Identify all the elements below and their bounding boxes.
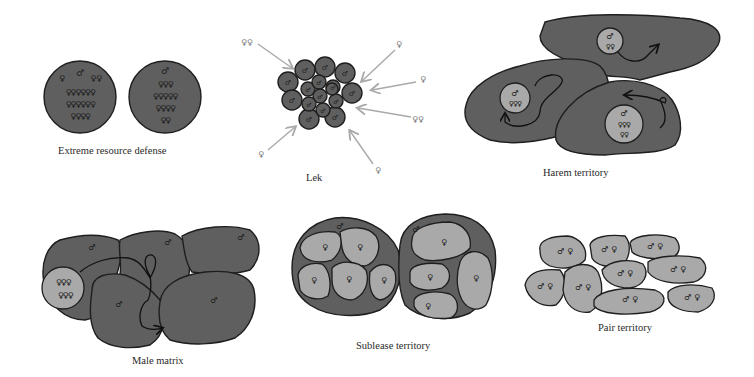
label-harem-territory: Harem territory — [543, 167, 609, 178]
male-icon: ♂ — [620, 109, 627, 118]
pair-icon: ♂ ♀ — [617, 269, 633, 278]
harem-group-left — [500, 83, 530, 113]
female-icon: ♀♀♀♀♀♀ — [65, 100, 95, 109]
female-icon: ♀ — [375, 166, 381, 175]
female-icon: ♀ — [311, 276, 317, 285]
female-icon: ♀ — [258, 150, 264, 159]
sublease-territory-panel: ♂ ♂ ♀ ♀ ♀ ♀ ♀ ♀ ♀ ♀ ♀ — [292, 214, 496, 319]
female-icon: ♀♀♀♀ — [155, 104, 176, 113]
pair-icon: ♂ ♀ — [684, 293, 700, 302]
male-icon: ♂ — [320, 107, 325, 114]
extreme-resource-defense-panel: ♂ ♀ ♀♀ ♀♀♀♀♀♀ ♀♀♀♀♀♀ ♀♀♀♀ ♂ ♀♀♀ ♀♀♀♀♀ ♀♀… — [44, 61, 201, 133]
female-icon: ♀♀♀♀♀ — [153, 92, 178, 101]
male-icon: ♂ — [161, 66, 169, 76]
female-icon: ♀♀ — [412, 115, 424, 124]
label-lek: Lek — [306, 172, 322, 183]
male-icon: ♂ — [336, 222, 343, 231]
female-icon: ♀ — [381, 276, 387, 285]
matrix-territory-5 — [159, 271, 255, 344]
female-icon: ♀♀♀ — [158, 80, 174, 89]
male-icon: ♂ — [289, 97, 295, 105]
female-icon: ♀♀♀♀ — [70, 112, 91, 121]
male-matrix-panel: ♂ ♂ ♂ ♂ ♂ ♀♀♀ ♀♀♀ — [42, 227, 259, 348]
label-male-matrix: Male matrix — [132, 355, 184, 366]
female-icon: ♀♀ — [606, 43, 615, 51]
pair-icon: ♂ ♀ — [601, 245, 617, 254]
matrix-territory-3 — [182, 227, 259, 274]
male-icon: ♂ — [333, 98, 338, 105]
female-icon: ♀♀♀ — [58, 291, 74, 300]
male-icon: ♂ — [606, 32, 613, 41]
mating-systems-diagram: ♂ ♀ ♀♀ ♀♀♀♀♀♀ ♀♀♀♀♀♀ ♀♀♀♀ ♂ ♀♀♀ ♀♀♀♀♀ ♀♀… — [0, 0, 754, 377]
male-icon: ♂ — [511, 89, 518, 98]
female-icon: ♀ — [357, 243, 363, 252]
pair-icon: ♂ ♀ — [537, 282, 553, 291]
pair-icon: ♂ ♀ — [647, 242, 663, 251]
pair-territory-panel: ♂ ♀ ♂ ♀ ♂ ♀ ♂ ♀ ♂ ♀ ♂ ♀ ♂ ♀ ♂ ♀ ♂ ♀ — [525, 235, 714, 314]
pair-icon: ♂ ♀ — [622, 295, 638, 304]
female-icon: ♀ — [420, 75, 426, 84]
label-sublease-territory: Sublease territory — [356, 340, 430, 351]
female-icon: ♀♀ — [620, 131, 629, 139]
male-icon: ♂ — [76, 68, 84, 78]
male-icon: ♂ — [306, 116, 312, 124]
male-icon: ♂ — [342, 70, 348, 78]
female-icon: ♀ — [322, 243, 328, 252]
pair-icon: ♂ ♀ — [557, 247, 573, 256]
female-icon: ♀ — [441, 238, 447, 247]
female-icon: ♀ — [427, 273, 433, 282]
male-icon: ♂ — [322, 64, 328, 72]
female-icon: ♀♀♀♀♀♀ — [65, 88, 95, 97]
female-icon: ♀♀ — [90, 74, 102, 83]
male-icon: ♂ — [412, 225, 419, 234]
male-icon: ♂ — [306, 101, 311, 108]
female-icon: ♀♀♀ — [509, 100, 522, 108]
male-icon: ♂ — [330, 84, 335, 91]
label-pair-territory: Pair territory — [598, 322, 652, 333]
female-icon: ♀♀ — [241, 38, 253, 47]
harem-territory-panel: ♂ ♀♀ ♂ ♀♀♀ ♂ ♀♀♀ ♀♀ — [465, 15, 720, 155]
male-icon: ♂ — [332, 114, 338, 122]
male-icon: ♂ — [285, 79, 291, 87]
male-icon: ♂ — [302, 67, 308, 75]
female-icon: ♀♀♀ — [618, 121, 631, 129]
pair-icon: ♂ ♀ — [575, 283, 591, 292]
female-group — [42, 267, 84, 309]
female-icon: ♀ — [473, 274, 479, 283]
label-extreme-resource-defense: Extreme resource defense — [58, 145, 166, 156]
lek-panel: ♂ ♂ ♂ ♂ ♂ ♂ ♂ ♂ ♂ ♂ ♂ ♂ ♂ ♂ ♂ ♀♀ ♀ ♀ ♀♀ … — [241, 38, 426, 175]
pair-icon: ♂ ♀ — [670, 265, 686, 274]
female-icon: ♀♀♀ — [56, 278, 72, 287]
male-icon: ♂ — [210, 296, 217, 305]
male-icon: ♂ — [115, 300, 122, 309]
male-icon: ♂ — [317, 93, 322, 100]
female-icon: ♀ — [346, 275, 352, 284]
male-icon: ♂ — [316, 79, 321, 86]
female-icon: ♀ — [396, 40, 402, 49]
female-icon: ♀♀ — [160, 116, 171, 125]
female-icon: ♀ — [425, 302, 431, 311]
female-icon: ♀ — [59, 74, 65, 83]
male-icon: ♂ — [349, 90, 355, 98]
male-icon: ♂ — [305, 86, 310, 93]
male-icon: ♂ — [237, 233, 244, 242]
male-icon: ♂ — [88, 243, 95, 252]
male-icon: ♂ — [164, 238, 171, 247]
